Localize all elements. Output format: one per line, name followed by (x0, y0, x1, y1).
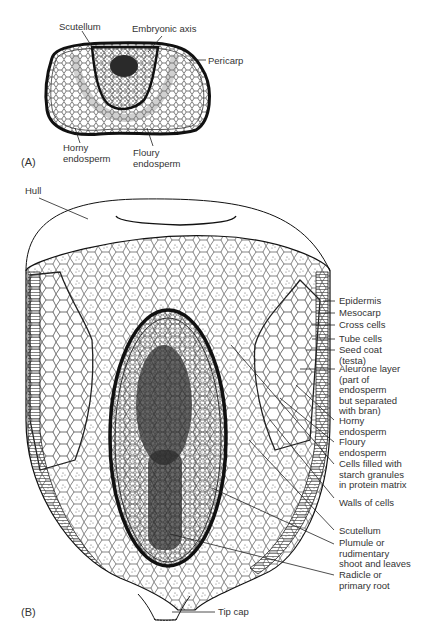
label-line: endosperm (133, 159, 181, 170)
hull-fold (116, 216, 236, 225)
label-line: Cells filled with (339, 459, 407, 470)
label-scutellum-a: Scutellum (59, 22, 101, 33)
panel-b-longitudinal-section (26, 199, 330, 621)
label-embryonic-axis: Embryonic axis (132, 24, 196, 35)
label-cells-filled: Cells filled with starch granules in pro… (339, 459, 407, 491)
radicle (148, 450, 182, 550)
plumule (136, 345, 192, 465)
label-line: Floury (339, 437, 387, 448)
label-line: Floury (133, 148, 181, 159)
label-line: endosperm (339, 385, 400, 396)
label-walls-of-cells: Walls of cells (339, 498, 394, 509)
panel-a-cross-section (46, 43, 210, 135)
label-epidermis: Epidermis (339, 296, 381, 307)
label-radicle: Radicle or primary root (339, 570, 390, 591)
panel-a-tag: (A) (21, 156, 36, 168)
label-line: Aleurone layer (339, 364, 400, 375)
label-horny-endosperm-a: Horny endosperm (63, 143, 111, 164)
label-line: Radicle or (339, 570, 390, 581)
label-line: shoot and leaves (339, 559, 411, 570)
label-horny-endosperm-b: Horny endosperm (339, 416, 387, 437)
label-hull: Hull (25, 186, 41, 197)
label-line: Horny (63, 143, 111, 154)
label-line: Horny (339, 416, 387, 427)
label-tip-cap: Tip cap (218, 607, 249, 618)
label-line: endosperm (339, 448, 387, 459)
label-floury-endosperm-b: Floury endosperm (339, 437, 387, 458)
panel-b-tag: (B) (21, 606, 36, 618)
label-line: Plumule or (339, 538, 411, 549)
label-scutellum-b: Scutellum (339, 526, 381, 537)
label-line: in protein matrix (339, 480, 407, 491)
label-aleurone-layer: Aleurone layer (part of endosperm but se… (339, 364, 400, 417)
label-cross-cells: Cross cells (339, 320, 385, 331)
embryonic-axis-a (110, 55, 138, 77)
label-line: primary root (339, 581, 390, 592)
grain-anatomy-figure: Scutellum Embryonic axis Pericarp Horny … (0, 0, 423, 642)
label-pericarp: Pericarp (208, 56, 243, 67)
label-tube-cells: Tube cells (339, 334, 382, 345)
label-plumule: Plumule or rudimentary shoot and leaves (339, 538, 411, 570)
label-mesocarp: Mesocarp (339, 308, 381, 319)
label-line: endosperm (63, 154, 111, 165)
label-floury-endosperm-a: Floury endosperm (133, 148, 181, 169)
label-line: Seed coat (339, 345, 382, 356)
